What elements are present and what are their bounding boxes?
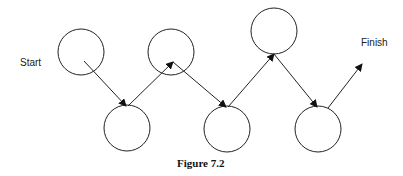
node-1 — [58, 29, 104, 75]
node-3 — [148, 29, 194, 75]
node-2 — [104, 105, 150, 151]
node-5 — [251, 8, 297, 54]
arrow-6-finish — [328, 64, 362, 108]
arrow-2-3 — [128, 62, 173, 106]
start-label: Start — [20, 57, 41, 68]
arrow-5-6 — [274, 54, 317, 107]
arrow-1-2 — [84, 61, 126, 106]
node-4 — [204, 106, 250, 152]
node-6 — [295, 106, 341, 152]
arrow-3-4 — [173, 62, 226, 107]
arrow-4-5 — [228, 54, 274, 107]
figure-caption: Figure 7.2 — [177, 157, 224, 169]
zigzag-diagram — [0, 0, 403, 176]
finish-label: Finish — [361, 37, 388, 48]
